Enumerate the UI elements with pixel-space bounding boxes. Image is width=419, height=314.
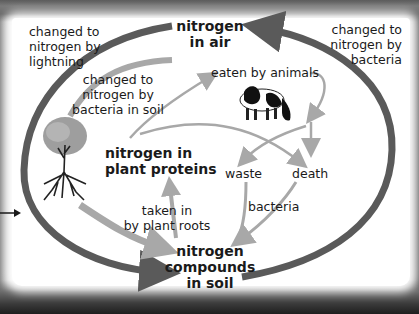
node-nitrogen-in-plant-proteins: nitrogen in plant proteins [105,145,217,177]
arrow-waste-to-soil [238,182,246,238]
node-nitrogen-compounds-in-soil: nitrogen compounds in soil [160,243,260,291]
label-lightning: changed to nitrogen by lightning [29,24,101,69]
node-waste: waste [225,166,262,181]
label-bacteria-to-air: changed to nitrogen by bacteria [322,22,402,67]
node-nitrogen-in-air: nitrogen in air [172,18,248,50]
label-eaten-by-animals: eaten by animals [211,65,319,80]
node-death: death [292,166,328,181]
label-taken-in-by-roots: taken in by plant roots [122,203,212,233]
tree-icon [43,117,87,200]
arrow-animals-to-waste [244,126,306,160]
cow-icon [240,86,291,120]
label-bacteria-decay: bacteria [248,199,299,214]
label-bacteria-in-soil: changed to nitrogen by bacteria in soil [72,72,164,117]
